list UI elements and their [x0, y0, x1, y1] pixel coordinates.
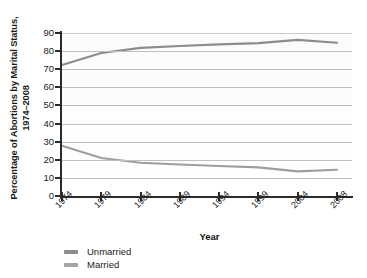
y-tick-70: [55, 68, 62, 70]
gridline-60: [61, 87, 352, 88]
x-axis-title-text: Year: [199, 231, 219, 242]
line-married: [62, 146, 337, 172]
x-axis-title: Year: [0, 231, 367, 242]
legend-item-married[interactable]: Married: [64, 258, 131, 271]
chart-figure: Percentage of Abortions by Marital Statu…: [0, 0, 367, 278]
gridline-10: [61, 178, 352, 179]
y-axis-title-line1: Percentage of Abortions by Marital Statu…: [9, 16, 19, 199]
y-tick-label-90: 90: [36, 28, 54, 38]
y-tick-label-0: 0: [36, 191, 54, 201]
line-unmarried: [62, 40, 337, 65]
gridline-30: [61, 142, 352, 143]
gridline-50: [61, 105, 352, 106]
y-tick-label-80: 80: [36, 46, 54, 56]
series-lines: [61, 33, 352, 196]
gridline-20: [61, 160, 352, 161]
gridline-40: [61, 124, 352, 125]
y-tick-30: [55, 141, 62, 143]
y-tick-label-10: 10: [36, 173, 54, 183]
legend-item-unmarried[interactable]: Unmarried: [64, 245, 131, 258]
x-tick-label-1974: 1974: [53, 189, 74, 210]
y-tick-label-30: 30: [36, 137, 54, 147]
chart-legend: Unmarried Married: [64, 245, 131, 271]
plot-area: [61, 33, 352, 196]
y-tick-10: [55, 177, 62, 179]
y-tick-20: [55, 159, 62, 161]
y-tick-label-60: 60: [36, 82, 54, 92]
legend-label-unmarried: Unmarried: [87, 246, 131, 257]
y-axis-spine: [60, 31, 62, 198]
y-tick-90: [55, 32, 62, 34]
legend-swatch-unmarried: [64, 250, 78, 254]
y-axis-title-line2: 1974–2008: [20, 16, 32, 199]
y-tick-50: [55, 104, 62, 106]
y-tick-label-20: 20: [36, 155, 54, 165]
y-tick-label-70: 70: [36, 64, 54, 74]
y-tick-label-40: 40: [36, 119, 54, 129]
gridline-90: [61, 33, 352, 34]
y-tick-80: [55, 50, 62, 52]
y-tick-label-50: 50: [36, 100, 54, 110]
y-axis-title: Percentage of Abortions by Marital Statu…: [0, 0, 40, 215]
y-tick-60: [55, 86, 62, 88]
y-tick-40: [55, 123, 62, 125]
legend-label-married: Married: [87, 259, 119, 270]
gridline-80: [61, 51, 352, 52]
gridline-70: [61, 69, 352, 70]
legend-swatch-married: [64, 263, 78, 267]
